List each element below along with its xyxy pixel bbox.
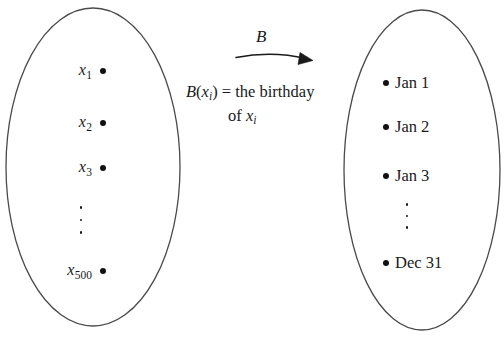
definition-argument-2: xi	[246, 106, 257, 125]
domain-item-3-label: x3	[79, 158, 92, 177]
mapping-arrow-label: B	[256, 28, 266, 45]
definition-tail-1: ) = the birthday	[212, 82, 314, 101]
domain-item-3: x3	[40, 159, 106, 177]
definition-of-word: of	[228, 106, 246, 125]
codomain-item-jan-2: Jan 2	[383, 118, 429, 136]
definition-argument: xi	[202, 82, 213, 101]
codomain-item-dec-31-label: Dec 31	[395, 253, 442, 273]
codomain-item-jan-3: Jan 3	[383, 167, 429, 185]
mapping-definition-line-1: B(xi) = the birthday	[186, 84, 314, 102]
domain-item-1-label: x1	[79, 61, 92, 80]
mapping-arrow-icon	[236, 53, 313, 65]
definition-function-name: B	[186, 82, 196, 101]
codomain-item-jan-1-label: Jan 1	[395, 73, 429, 93]
domain-item-500-label: x500	[67, 261, 92, 280]
codomain-item-jan-2-dot	[383, 124, 389, 130]
domain-item-2-label: x2	[79, 113, 92, 132]
domain-item-3-dot	[100, 165, 106, 171]
domain-item-500-dot	[100, 268, 106, 274]
codomain-item-jan-3-label: Jan 3	[395, 166, 429, 186]
codomain-item-jan-3-dot	[383, 173, 389, 179]
domain-item-2-dot	[100, 120, 106, 126]
mapping-definition-line-2: of xi	[228, 108, 256, 126]
domain-item-500: x500	[30, 262, 106, 280]
codomain-vertical-dots-icon	[404, 203, 410, 229]
codomain-item-dec-31: Dec 31	[383, 254, 442, 272]
codomain-item-jan-1-dot	[383, 80, 389, 86]
codomain-item-dec-31-dot	[383, 260, 389, 266]
domain-item-2: x2	[40, 114, 106, 132]
definition-open-paren: (	[196, 82, 202, 101]
domain-vertical-dots-icon	[78, 206, 84, 234]
codomain-item-jan-1: Jan 1	[383, 74, 429, 92]
codomain-item-jan-2-label: Jan 2	[395, 117, 429, 137]
birthday-function-figure: x1 x2 x3 x500 B B(xi) = the birthday of …	[0, 0, 504, 339]
domain-item-1: x1	[40, 62, 106, 80]
domain-item-1-dot	[100, 68, 106, 74]
